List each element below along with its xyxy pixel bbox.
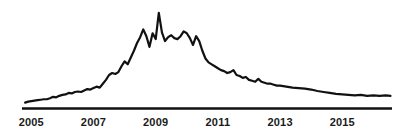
chart-plot-area <box>0 0 409 139</box>
chart-background <box>0 0 409 139</box>
line-chart: 200520072009201120132015 <box>0 0 409 139</box>
